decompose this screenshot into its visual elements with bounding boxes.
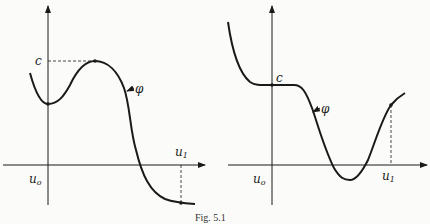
left-u1-label: u1 — [175, 145, 188, 160]
left-phi-pointer — [127, 88, 134, 91]
left-u0-label: uo — [29, 172, 42, 187]
right-phi-label: φ — [321, 102, 330, 116]
figure-caption: Fig. 5.1 — [195, 212, 226, 223]
left-phi-label: φ — [135, 82, 144, 96]
left-min-point — [46, 102, 50, 106]
left-u1-point — [179, 201, 183, 205]
right-u1-point — [389, 103, 393, 107]
left-c-label: c — [35, 54, 42, 68]
left-phi-curve — [30, 61, 195, 204]
right-u0-label: uo — [253, 172, 266, 187]
left-panel: c φ uo u1 — [3, 6, 205, 205]
right-c-point — [270, 83, 274, 87]
left-max-point — [93, 59, 97, 63]
right-phi-pointer — [313, 108, 320, 112]
figure: c φ uo u1 c φ uo u1 Fig. 5.1 — [0, 0, 430, 224]
right-panel: c φ uo u1 — [228, 6, 427, 205]
right-c-label: c — [276, 71, 283, 85]
right-phi-curve — [228, 22, 405, 180]
right-u1-label: u1 — [382, 169, 395, 184]
